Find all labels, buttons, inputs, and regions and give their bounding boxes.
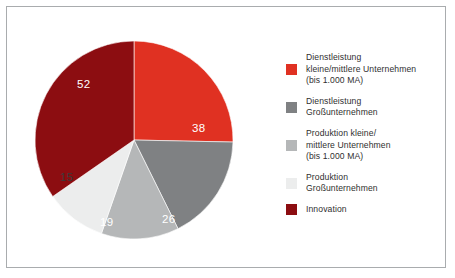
pie-slice-value-label: 52	[77, 78, 91, 90]
legend-item[interactable]: Dienstleistung Großunternehmen	[286, 96, 446, 119]
figure-page: 3826191552 Dienstleistung kleine/mittler…	[0, 0, 455, 278]
pie-slice-value-label: 19	[100, 216, 114, 228]
pie-slice-group	[35, 41, 233, 239]
pie-slice[interactable]	[134, 41, 233, 142]
legend-item-label: Produktion Großunternehmen	[306, 172, 378, 195]
legend-swatch-produktion-kmu	[286, 140, 297, 151]
legend-swatch-produktion-gross	[286, 178, 297, 189]
pie-slice-value-label: 38	[192, 122, 206, 134]
pie-slice-value-label: 15	[60, 171, 74, 183]
legend-item-label: Innovation	[306, 204, 347, 216]
legend-item-label: Dienstleistung Großunternehmen	[306, 96, 378, 119]
legend-swatch-innovation	[286, 204, 297, 215]
legend-swatch-dienstleistung-kmu	[286, 64, 297, 75]
legend-item[interactable]: Innovation	[286, 204, 446, 216]
legend-item[interactable]: Produktion kleine/ mittlere Unternehmen …	[286, 128, 446, 163]
legend-item[interactable]: Dienstleistung kleine/mittlere Unternehm…	[286, 52, 446, 87]
legend-item[interactable]: Produktion Großunternehmen	[286, 172, 446, 195]
legend-item-label: Dienstleistung kleine/mittlere Unternehm…	[306, 52, 416, 87]
legend-item-label: Produktion kleine/ mittlere Unternehmen …	[306, 128, 391, 163]
legend-swatch-dienstleistung-gross	[286, 102, 297, 113]
pie-svg	[34, 40, 234, 240]
chart-legend: Dienstleistung kleine/mittlere Unternehm…	[286, 52, 446, 225]
pie-slice-value-label: 26	[162, 213, 176, 225]
